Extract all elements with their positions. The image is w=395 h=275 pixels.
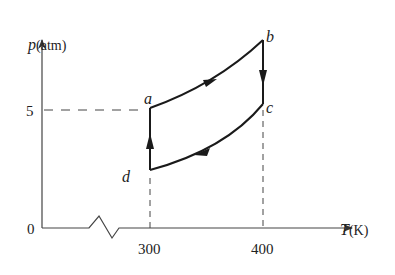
direction-arrows	[146, 70, 267, 156]
y-tick-5: 5	[26, 103, 34, 119]
arrow-bc-icon	[259, 70, 267, 86]
arrow-da-icon	[146, 133, 154, 149]
point-a-label: a	[144, 90, 152, 107]
origin-label: 0	[27, 221, 35, 237]
y-axis-label: p(atm)	[27, 36, 67, 54]
x-axis	[42, 216, 352, 238]
segment-cd	[150, 104, 263, 170]
point-c-label: c	[266, 99, 273, 116]
arrow-cd-icon	[194, 148, 210, 156]
x-tick-300: 300	[138, 241, 161, 257]
point-b-label: b	[266, 28, 274, 45]
segment-ab	[150, 40, 263, 108]
point-d-label: d	[122, 168, 131, 185]
arrow-ab-icon	[203, 79, 217, 87]
pt-diagram: p(atm) T(K) 5 0 300 400 a b c d	[0, 0, 395, 275]
x-axis-label: T(K)	[340, 221, 369, 239]
x-tick-400: 400	[251, 241, 274, 257]
